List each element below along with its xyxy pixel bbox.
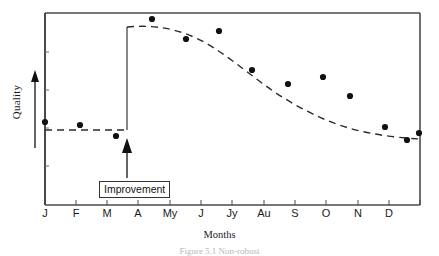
x-tick-label-may: My [163,207,178,219]
y-axis-title: Quality [10,72,22,132]
x-tick-label-nov: N [354,207,362,219]
data-point [382,124,388,130]
data-point [347,93,353,99]
x-tick-label-oct: O [322,207,331,219]
data-point [416,130,422,136]
quality-direction-arrow-icon [31,70,39,148]
x-tick-label-dec: D [385,207,393,219]
data-point [77,122,83,128]
data-point [285,81,291,87]
data-point [404,137,410,143]
data-point [149,16,155,22]
plot-frame [45,13,420,205]
x-tick-label-jan: J [42,207,48,219]
data-point [249,67,255,73]
x-tick-label-mar: M [102,207,111,219]
x-tick-label-feb: F [73,207,80,219]
figure-caption: Figure 5.1 Non-robust [0,246,439,256]
x-tick-label-apr: A [134,207,141,219]
data-points [42,16,422,143]
improvement-annotation-label: Improvement [99,181,170,198]
data-point [216,28,222,34]
data-point [183,36,189,42]
data-point [113,133,119,139]
x-tick-label-jul: Jy [227,207,238,219]
trend-line-curve [127,26,420,139]
x-tick-label-jun: J [198,207,204,219]
improvement-arrow-icon [122,138,132,178]
data-point [320,74,326,80]
x-axis-title: Months [0,229,439,240]
x-tick-label-aug: Au [257,207,270,219]
data-point [42,119,48,125]
x-tick-label-sep: S [291,207,298,219]
